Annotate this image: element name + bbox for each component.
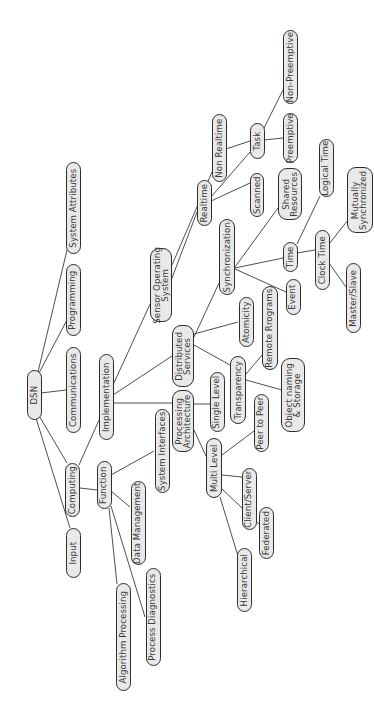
node-label: Master/Slave xyxy=(349,270,357,327)
node-master-slave: Master/Slave xyxy=(346,263,361,333)
node-process-diagnostics: Process Diagnostics xyxy=(146,568,161,666)
node-system-attributes: System Attributes xyxy=(66,162,81,254)
node-label: Processing Architecture xyxy=(175,394,192,448)
node-label: Scanned xyxy=(253,176,261,214)
node-object-naming-storage: Object naming & Storage xyxy=(281,358,305,432)
edge-computing-to-function xyxy=(80,488,97,490)
node-hierarchical: Hierarchical xyxy=(237,548,252,612)
edge-synchronization-to-event xyxy=(235,269,286,292)
edge-function-to-data-management xyxy=(111,491,130,507)
node-time: Time xyxy=(283,242,298,272)
edge-sensor-operating-system-to-realtime xyxy=(172,212,197,278)
node-input: Input xyxy=(66,528,81,578)
node-label: Task xyxy=(253,132,261,151)
node-synchronization: Synchronization xyxy=(219,219,235,295)
node-label: Non-Preemptive xyxy=(286,32,294,103)
node-label: Communications xyxy=(69,353,77,427)
edge-dsn-to-communications xyxy=(41,390,66,393)
node-label: Process Diagnostics xyxy=(149,573,157,660)
node-task: Task xyxy=(250,123,265,159)
node-label: Remote Rrograms xyxy=(266,288,274,367)
edge-distributed-services-to-synchronization xyxy=(194,283,219,337)
node-label: Object naming & Storage xyxy=(285,363,302,427)
node-implementation: Implementation xyxy=(99,354,114,440)
node-label: Time xyxy=(286,246,294,267)
edge-distributed-services-to-transparency xyxy=(194,345,230,365)
node-label: Computing xyxy=(68,466,76,514)
edge-function-to-system-interfaces xyxy=(111,451,154,475)
node-shared-resources: Shared Resources xyxy=(278,168,302,220)
edge-task-to-preemptive xyxy=(264,138,283,140)
node-processing-architecture: Processing Architecture xyxy=(172,390,194,452)
edge-function-to-algorithm-processing xyxy=(109,508,117,584)
node-preemptive: Preemptive xyxy=(283,113,298,163)
node-logical-time: Logical Time xyxy=(319,139,334,197)
node-label: Shared Resources xyxy=(282,172,299,217)
node-programming: Programming xyxy=(66,264,81,336)
node-function: Function xyxy=(97,461,112,509)
node-algorithm-processing: Algorithm Processing xyxy=(116,583,131,691)
node-label: Data Management xyxy=(134,482,142,563)
node-label: Non Realtime xyxy=(215,118,223,177)
node-distributed-services: Distributed Services xyxy=(172,325,194,387)
node-scanned: Scanned xyxy=(250,173,264,217)
edge-dsn-to-programming xyxy=(39,320,67,373)
node-remote-programs: Remote Rrograms xyxy=(262,286,278,370)
node-label: Peer to Peer xyxy=(257,396,265,449)
node-label: Federated xyxy=(262,511,270,555)
node-client-server: Client/Server xyxy=(242,468,257,530)
node-dsn: DSN xyxy=(27,370,42,420)
node-mutually-synchronized: Mutually Synchronized xyxy=(347,167,373,233)
node-label: Input xyxy=(69,542,77,565)
node-label: Atomicity xyxy=(242,301,250,343)
node-non-realtime: Non Realtime xyxy=(212,114,227,182)
node-non-preemptive: Non-Preemptive xyxy=(283,30,298,104)
node-label: Preemptive xyxy=(286,113,294,163)
node-event: Event xyxy=(286,279,301,315)
edge-non-realtime-to-task xyxy=(226,141,250,149)
node-communications: Communications xyxy=(66,347,81,433)
node-label: Logical Time xyxy=(322,140,330,195)
edge-multi-level-to-peer-to-peer xyxy=(222,431,254,455)
edge-processing-architecture-to-multi-level xyxy=(194,430,206,456)
node-federated: Federated xyxy=(259,507,274,559)
node-label: Implementation xyxy=(102,362,110,432)
node-label: Synchronization xyxy=(223,222,231,292)
node-computing: Computing xyxy=(65,463,80,517)
node-single-level: Single Level xyxy=(210,372,225,432)
edge-multi-level-to-hierarchical xyxy=(220,497,238,556)
edge-time-to-clock-time xyxy=(297,250,315,253)
edge-synchronization-to-time xyxy=(235,258,283,268)
node-label: Distributed Services xyxy=(175,332,192,381)
node-realtime: Realtime xyxy=(197,180,212,226)
edge-implementation-to-distributed-services xyxy=(113,356,172,395)
edge-implementation-to-sensor-operating-system xyxy=(113,302,151,385)
node-peer-to-peer: Peer to Peer xyxy=(254,394,269,452)
node-label: Transparency xyxy=(234,361,242,420)
edge-transparency-to-remote-programs xyxy=(246,354,263,374)
edge-clock-time-to-master-slave xyxy=(329,263,346,287)
dsn-taxonomy-diagram: DSNInputComputingCommunicationsProgrammi… xyxy=(0,0,374,712)
node-label: Programming xyxy=(69,270,77,329)
node-sensor-operating-system: Sensor Operating System xyxy=(150,248,172,322)
edge-clock-time-to-mutually-synchronized xyxy=(329,220,348,244)
node-label: System Attributes xyxy=(69,169,77,248)
node-clock-time: Clock Time xyxy=(315,230,330,290)
node-multi-level: Multi Level xyxy=(206,438,222,498)
edge-multi-level-to-client-server xyxy=(222,475,242,477)
node-data-management: Data Management xyxy=(131,481,146,565)
node-label: Client/Server xyxy=(245,470,253,527)
node-label: Algorithm Processing xyxy=(119,591,127,684)
node-label: Single Level xyxy=(213,375,221,428)
node-label: Function xyxy=(100,466,108,503)
node-system-interfaces: System Interfaces xyxy=(155,409,170,493)
node-atomicity: Atomicity xyxy=(239,297,254,347)
node-label: Sensor Operating System xyxy=(153,247,170,324)
node-label: Clock Time xyxy=(318,236,326,284)
edge-dsn-to-system-attributes xyxy=(38,250,67,372)
node-label: Realtime xyxy=(200,184,208,223)
node-label: Event xyxy=(289,284,297,309)
node-label: Multi Level xyxy=(210,444,218,492)
edge-transparency-to-object-naming-storage xyxy=(246,380,282,390)
node-label: Hierarchical xyxy=(240,554,248,606)
